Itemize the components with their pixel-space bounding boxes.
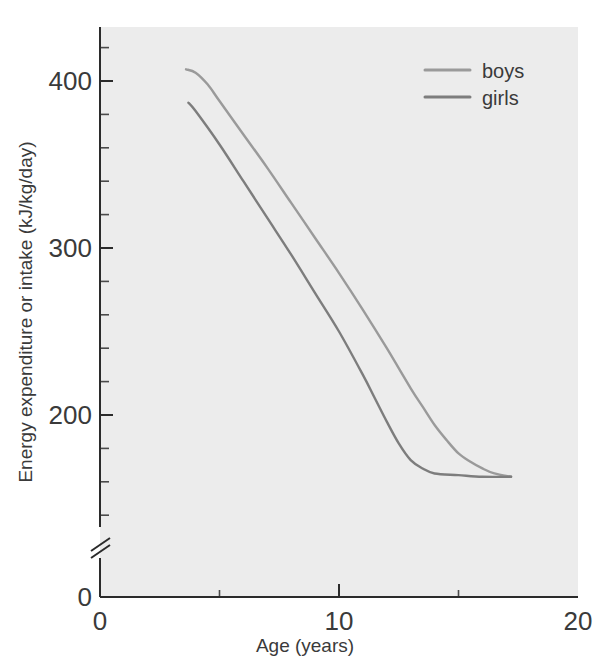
chart-svg: 0200300400 01020 Age (years) Energy expe… — [0, 0, 610, 665]
y-tick-label-0: 0 — [78, 582, 92, 612]
legend-label-girls: girls — [482, 87, 519, 109]
x-tick-label-20: 20 — [564, 606, 593, 636]
plot-background — [100, 27, 578, 597]
x-tick-label-0: 0 — [93, 606, 107, 636]
y-axis-title: Energy expenditure or intake (kJ/kg/day) — [15, 141, 36, 482]
legend-label-boys: boys — [482, 60, 524, 82]
y-axis-tick-labels: 0200300400 — [49, 66, 92, 612]
y-tick-label-400: 400 — [49, 66, 92, 96]
x-axis-title: Age (years) — [256, 635, 354, 656]
y-tick-label-300: 300 — [49, 233, 92, 263]
chart-figure: 0200300400 01020 Age (years) Energy expe… — [0, 0, 610, 665]
x-axis-tick-labels: 01020 — [93, 606, 593, 636]
x-tick-label-10: 10 — [325, 606, 354, 636]
y-tick-label-200: 200 — [49, 400, 92, 430]
